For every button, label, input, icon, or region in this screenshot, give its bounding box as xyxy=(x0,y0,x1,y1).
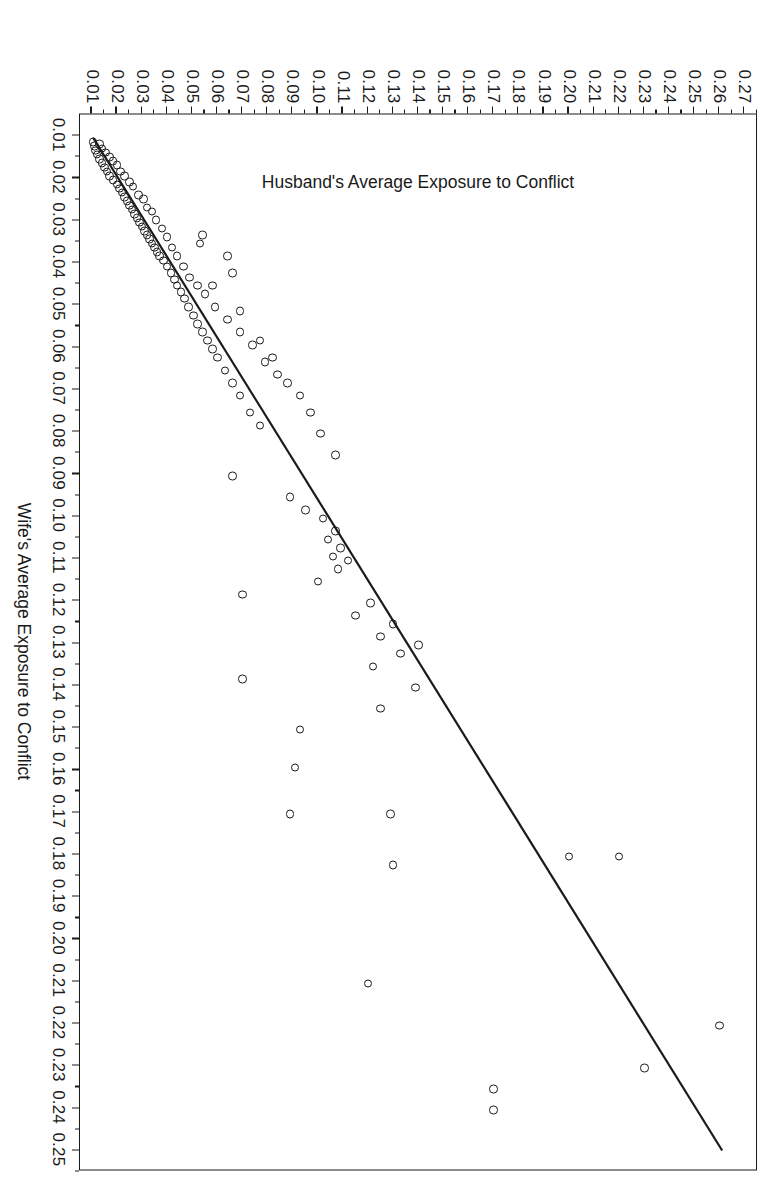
x-tick xyxy=(72,642,79,643)
data-point xyxy=(180,294,189,303)
x-tick xyxy=(72,1064,79,1065)
y-tick xyxy=(241,106,242,113)
x-tick-minor xyxy=(75,1043,79,1044)
x-tick-label: 0.03 xyxy=(48,202,68,236)
x-tick-minor xyxy=(75,1085,79,1086)
data-point xyxy=(152,215,161,224)
x-tick xyxy=(72,176,79,177)
y-tick-label: 0.15 xyxy=(433,55,453,103)
y-tick xyxy=(367,106,368,113)
data-point xyxy=(129,182,138,191)
data-point xyxy=(238,590,247,599)
y-tick xyxy=(517,106,518,113)
x-tick-minor xyxy=(75,494,79,495)
y-tick-label: 0.02 xyxy=(107,55,127,103)
y-axis-title: Husband's Average Exposure to Conflict xyxy=(262,172,574,193)
data-point xyxy=(334,564,343,573)
x-tick xyxy=(72,811,79,812)
x-tick xyxy=(72,346,79,347)
data-points-layer xyxy=(80,114,756,1169)
x-tick xyxy=(72,1022,79,1023)
x-tick-minor xyxy=(75,198,79,199)
y-tick-label: 0.09 xyxy=(282,55,302,103)
y-tick-minor xyxy=(128,109,129,113)
data-point xyxy=(389,860,398,869)
data-point xyxy=(193,281,202,290)
x-tick-minor xyxy=(75,1001,79,1002)
x-tick-label: 0.25 xyxy=(48,1132,68,1166)
y-tick-label: 0.19 xyxy=(534,55,554,103)
y-tick-minor xyxy=(103,109,104,113)
data-point xyxy=(158,224,167,233)
x-tick xyxy=(72,430,79,431)
y-tick xyxy=(567,106,568,113)
y-tick-label: 0.27 xyxy=(734,55,754,103)
y-tick xyxy=(492,106,493,113)
data-point xyxy=(223,315,232,324)
y-tick-label: 0.12 xyxy=(358,55,378,103)
x-tick-label: 0.17 xyxy=(48,794,68,828)
y-tick-label: 0.21 xyxy=(584,55,604,103)
y-tick xyxy=(191,106,192,113)
data-point xyxy=(412,683,421,692)
y-tick-label: 0.25 xyxy=(684,55,704,103)
x-tick-label: 0.23 xyxy=(48,1047,68,1081)
x-tick-label: 0.08 xyxy=(48,413,68,447)
y-tick-label: 0.22 xyxy=(609,55,629,103)
x-tick-label: 0.07 xyxy=(48,371,68,405)
y-tick-minor xyxy=(680,109,681,113)
y-tick-label: 0.26 xyxy=(709,55,729,103)
y-tick-label: 0.17 xyxy=(483,55,503,103)
data-point xyxy=(389,619,398,628)
x-tick-minor xyxy=(75,705,79,706)
x-tick-label: 0.01 xyxy=(48,117,68,151)
y-tick-minor xyxy=(555,109,556,113)
y-tick-label: 0.04 xyxy=(157,55,177,103)
y-tick-label: 0.14 xyxy=(408,55,428,103)
y-tick xyxy=(693,106,694,113)
y-tick-minor xyxy=(706,109,707,113)
y-tick-label: 0.07 xyxy=(232,55,252,103)
x-axis-title: Wife's Average Exposure to Conflict xyxy=(13,502,34,779)
x-tick-label: 0.11 xyxy=(48,541,68,574)
y-tick-minor xyxy=(203,109,204,113)
x-tick-label: 0.12 xyxy=(48,582,68,616)
x-tick xyxy=(72,219,79,220)
plot-frame xyxy=(79,113,757,1170)
y-tick-label: 0.13 xyxy=(383,55,403,103)
data-point xyxy=(489,1084,498,1093)
data-point xyxy=(203,336,212,345)
x-tick xyxy=(72,261,79,262)
data-point xyxy=(296,391,305,400)
data-point xyxy=(186,273,195,282)
data-point xyxy=(386,809,395,818)
x-tick xyxy=(72,853,79,854)
data-point xyxy=(268,353,277,362)
data-point xyxy=(640,1063,649,1072)
data-point xyxy=(396,649,405,658)
x-tick-label: 0.16 xyxy=(48,751,68,785)
y-tick-label: 0.18 xyxy=(508,55,528,103)
data-point xyxy=(283,378,292,387)
data-point xyxy=(324,535,333,544)
data-point xyxy=(376,704,385,713)
data-point xyxy=(246,408,255,417)
data-point xyxy=(184,302,193,311)
data-point xyxy=(163,232,172,241)
y-tick xyxy=(291,106,292,113)
y-tick-label: 0.20 xyxy=(559,55,579,103)
data-point xyxy=(208,344,217,353)
data-point xyxy=(221,366,230,375)
x-tick-minor xyxy=(75,536,79,537)
y-tick xyxy=(115,106,116,113)
x-tick-minor xyxy=(75,451,79,452)
y-tick-label: 0.03 xyxy=(132,55,152,103)
x-tick-label: 0.04 xyxy=(48,244,68,278)
data-point xyxy=(236,306,245,315)
x-tick xyxy=(72,134,79,135)
x-tick-label: 0.14 xyxy=(48,667,68,701)
data-point xyxy=(329,552,338,561)
y-tick-label: 0.24 xyxy=(659,55,679,103)
y-tick-minor xyxy=(304,109,305,113)
y-tick xyxy=(141,106,142,113)
